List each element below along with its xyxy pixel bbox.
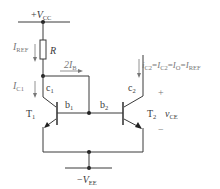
resistor-label: R bbox=[49, 45, 56, 56]
transistor-t2 bbox=[123, 55, 143, 152]
b1-label: b1 bbox=[65, 99, 73, 111]
vce-plus: + bbox=[158, 87, 164, 98]
t2-emitter-arrow-icon bbox=[135, 122, 142, 129]
c1-label: c1 bbox=[46, 82, 54, 94]
two-ib-arrow-icon bbox=[78, 69, 83, 73]
ic1-arrow-icon bbox=[33, 93, 37, 98]
iref-label: IREF bbox=[12, 41, 29, 53]
output-current-equation: iC2=IC2=IO=IREF bbox=[142, 60, 201, 71]
b2-label: b2 bbox=[100, 99, 108, 111]
current-mirror-diagram: +VCC R IREF 2IB IC1 c1 T1 b1 b2 bbox=[0, 0, 220, 189]
base-node bbox=[87, 111, 91, 115]
ic1-label: IC1 bbox=[12, 80, 24, 92]
t2-label: T2 bbox=[147, 108, 156, 120]
vee-label: −VEE bbox=[77, 174, 97, 186]
vce-label: vCE bbox=[165, 108, 178, 120]
vcc-label: +VCC bbox=[31, 9, 51, 21]
two-ib-label: 2IB bbox=[64, 59, 77, 71]
vce-minus: − bbox=[158, 124, 164, 135]
t1-emitter-arrow-icon bbox=[44, 122, 50, 128]
ic2-arrow-icon bbox=[137, 73, 141, 78]
c2-label: c2 bbox=[128, 82, 136, 94]
iref-arrow-icon bbox=[33, 57, 37, 62]
t1-label: T1 bbox=[26, 108, 35, 120]
resistor-r bbox=[40, 40, 46, 59]
